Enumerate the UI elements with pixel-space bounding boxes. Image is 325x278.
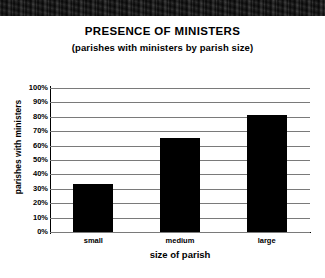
scan-artifact-edge	[0, 16, 325, 18]
y-axis-tick-label: 20%	[20, 199, 48, 207]
y-axis-tick-label: 60%	[20, 142, 48, 150]
y-axis-tick-label: 100%	[20, 84, 48, 92]
y-axis-tick-label: 0%	[20, 228, 48, 236]
y-axis-tick-label: 90%	[20, 98, 48, 106]
chart-title: PRESENCE OF MINISTERS	[0, 25, 325, 37]
x-axis-title: size of parish	[50, 249, 310, 260]
y-axis-title: parishes with ministers	[13, 77, 23, 217]
y-axis-tick-label: 70%	[20, 127, 48, 135]
x-axis-tick-label-small: small	[50, 236, 137, 245]
y-axis-tick-label: 10%	[20, 214, 48, 222]
x-axis-tick-label-large: large	[223, 236, 310, 245]
bar-large	[247, 115, 287, 232]
bar-small	[73, 184, 113, 232]
gridline	[50, 88, 310, 89]
x-axis-tick-labels: smallmediumlarge	[50, 236, 310, 250]
y-axis-tick-label: 30%	[20, 185, 48, 193]
y-axis-tick-label: 80%	[20, 113, 48, 121]
plot-area	[50, 88, 310, 232]
y-axis-tick-label: 40%	[20, 170, 48, 178]
chart-subtitle: (parishes with ministers by parish size)	[0, 42, 325, 53]
bar-medium	[160, 138, 200, 232]
gridline	[50, 232, 310, 233]
x-axis-tick-label-medium: medium	[137, 236, 224, 245]
scan-artifact-band	[0, 0, 325, 16]
gridline	[50, 102, 310, 103]
y-axis-tick-label: 50%	[20, 156, 48, 164]
